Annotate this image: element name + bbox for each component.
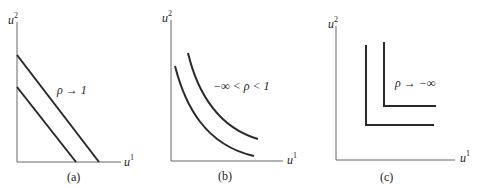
panel-c-caption: (c) (380, 171, 393, 183)
panel-b-annotation: −∞ < ρ < 1 (213, 80, 270, 92)
panel-b-y-label-sup: 2 (168, 9, 172, 18)
panel-a-caption: (a) (67, 171, 80, 183)
panel-b-outer-curve (188, 53, 258, 139)
panel-a-y-label-sup: 2 (14, 11, 18, 20)
panel-b-y-axis-label: u2 (162, 12, 172, 24)
panel-a-x-label-sup: 1 (130, 153, 134, 162)
panel-c-y-axis-label: u2 (328, 18, 338, 30)
panel-a-outer-line (17, 55, 99, 162)
panel-a-inner-line (17, 87, 76, 162)
panel-b-caption: (b) (218, 170, 232, 182)
panel-c-x-axis-label: u1 (460, 152, 470, 164)
panel-c-x-label-sup: 1 (466, 149, 470, 158)
panel-c-annotation: ρ → −∞ (395, 77, 435, 89)
panel-b-x-label-sup: 1 (293, 151, 297, 160)
panel-a-x-axis-label: u1 (124, 156, 134, 168)
panel-a-annotation: ρ → 1 (57, 84, 87, 96)
panel-c-inner-l-curve (384, 42, 436, 106)
panel-c-y-label-sup: 2 (334, 15, 338, 24)
panel-b-x-axis-label: u1 (287, 154, 297, 166)
panel-c (336, 26, 455, 160)
panel-a-y-axis-label: u2 (8, 14, 18, 26)
